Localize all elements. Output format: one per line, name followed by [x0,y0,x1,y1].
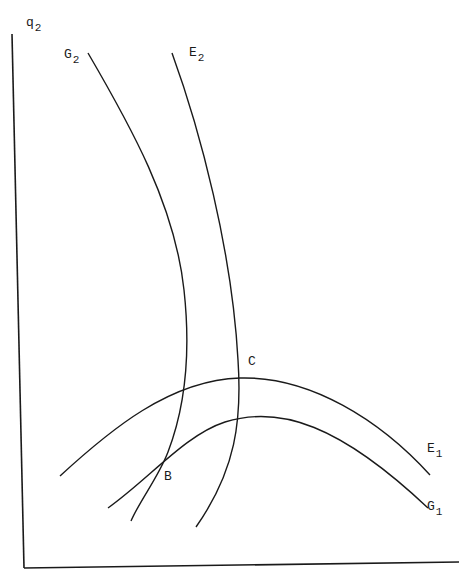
label-e2-sub: 2 [198,52,205,64]
y-axis-label: q2 [26,16,41,34]
curve-g2 [88,53,187,521]
curve-g1 [108,416,428,508]
diagram-canvas [0,0,468,584]
x-axis [24,562,459,568]
label-e1: E1 [427,442,442,460]
label-e1-sub: 1 [436,448,443,460]
label-g1-base: G [427,499,435,514]
point-label-c: C [248,355,256,368]
label-g2: G2 [64,48,79,66]
label-g2-base: G [64,47,72,62]
label-g1: G1 [427,500,442,518]
curve-e1 [60,378,430,476]
label-e2: E2 [189,46,204,64]
curve-e2 [172,53,239,527]
label-e2-base: E [189,45,197,60]
y-axis-label-sub: 2 [35,22,42,34]
label-g1-sub: 1 [436,506,443,518]
label-e1-base: E [427,441,435,456]
y-axis [12,34,24,568]
y-axis-label-base: q [26,15,34,30]
label-g2-sub: 2 [73,54,80,66]
point-label-b: B [164,470,172,483]
